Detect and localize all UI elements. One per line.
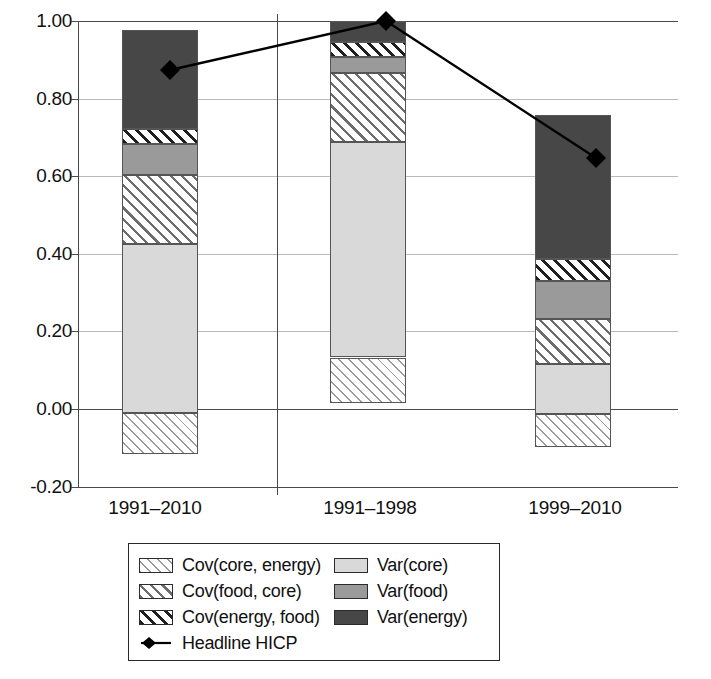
bar-segment-cov-energy-food[interactable] [535,259,611,282]
legend-swatch-cov-food-core-icon [139,584,173,599]
y-tick-label: 0.20 [36,320,72,342]
y-axis-labels: 1.00 0.80 0.60 0.40 0.20 0.00 -0.20 [0,21,72,487]
bar-segment-var-food[interactable] [330,57,406,73]
legend-item-var-core[interactable]: Var(core) [334,552,467,578]
y-tick-label: 0.40 [36,243,72,265]
bar-segment-cov-core-energy[interactable] [330,358,406,403]
legend: Cov(core, energy) Cov(food, core) Cov(en… [128,543,500,661]
legend-item-var-energy[interactable]: Var(energy) [334,604,467,630]
bar-1999-2010[interactable] [535,115,611,443]
legend-item-cov-food-core[interactable]: Cov(food, core) [139,578,321,604]
y-tick-label: 0.80 [36,88,72,110]
legend-swatch-var-core-icon [334,558,368,573]
legend-label: Var(core) [377,555,448,576]
bar-1991-2010[interactable] [122,30,198,454]
y-tick-label: 1.00 [36,10,72,32]
x-axis-label-1991-1998: 1991–1998 [275,497,465,519]
bar-segment-cov-energy-food[interactable] [122,129,198,143]
bar-segment-var-energy[interactable] [535,115,611,259]
legend-label: Var(energy) [377,607,467,628]
legend-swatch-cov-core-energy-icon [139,558,173,573]
y-tick-label: 0.60 [36,165,72,187]
x-axis-label-1991-2010: 1991–2010 [60,497,250,519]
plot-area [78,21,678,487]
bar-1991-1998[interactable] [330,21,406,407]
y-tick-label: 0.00 [36,398,72,420]
legend-swatch-diamond-line-marker-icon [139,635,173,651]
bar-segment-cov-food-core[interactable] [122,175,198,244]
legend-label: Var(food) [377,581,448,602]
panel-separator-line [277,14,278,495]
bar-segment-var-food[interactable] [535,281,611,319]
bar-segment-cov-food-core[interactable] [330,73,406,142]
legend-label: Cov(food, core) [182,581,302,602]
legend-label: Cov(core, energy) [182,555,321,576]
gridline--0.20 [78,487,678,488]
bar-segment-cov-core-energy[interactable] [535,414,611,447]
legend-label: Cov(energy, food) [182,607,320,628]
chart-container: 1.00 0.80 0.60 0.40 0.20 0.00 -0.20 [0,0,711,679]
bar-segment-cov-food-core[interactable] [535,319,611,364]
bar-segment-cov-core-energy[interactable] [122,413,198,454]
legend-item-cov-energy-food[interactable]: Cov(energy, food) [139,604,321,630]
legend-column-left: Cov(core, energy) Cov(food, core) Cov(en… [139,552,321,656]
y-tick-label: -0.20 [30,476,72,498]
legend-label: Headline HICP [182,633,297,654]
bar-segment-var-energy[interactable] [122,30,198,129]
legend-swatch-var-energy-icon [334,610,368,625]
bar-segment-var-core[interactable] [535,364,611,414]
legend-swatch-var-food-icon [334,584,368,599]
legend-swatch-cov-energy-food-icon [139,610,173,625]
x-axis-label-1999-2010: 1999–2010 [480,497,670,519]
bar-segment-var-food[interactable] [122,144,198,175]
bar-segment-var-energy[interactable] [330,21,406,42]
legend-column-right: Var(core) Var(food) Var(energy) [334,552,467,630]
y-axis-line [78,21,79,487]
bar-segment-var-core[interactable] [330,142,406,357]
bar-segment-cov-energy-food[interactable] [330,42,406,57]
legend-item-headline-hicp[interactable]: Headline HICP [139,630,321,656]
legend-item-cov-core-energy[interactable]: Cov(core, energy) [139,552,321,578]
bar-segment-var-core[interactable] [122,244,198,414]
legend-item-var-food[interactable]: Var(food) [334,578,467,604]
